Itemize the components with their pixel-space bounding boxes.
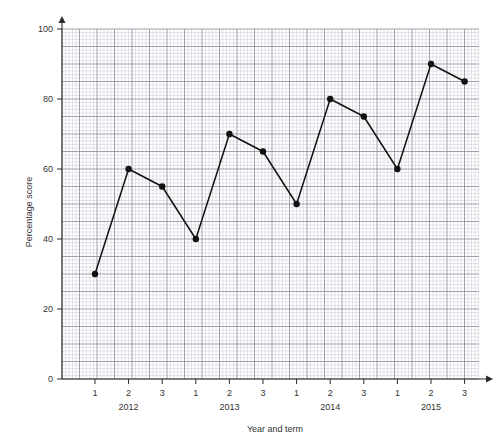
y-tick-label: 40	[43, 234, 53, 244]
line-chart: 020406080100 123123123123 20122013201420…	[0, 0, 501, 447]
x-tick-label: 3	[361, 388, 366, 398]
y-tick-label: 20	[43, 304, 53, 314]
data-point-marker	[361, 113, 367, 119]
y-axis-title: Percentage score	[24, 177, 34, 248]
x-tick-label: 2	[126, 388, 131, 398]
x-tick-label: 1	[294, 388, 299, 398]
x-tick-label: 3	[462, 388, 467, 398]
data-point-marker	[428, 61, 434, 67]
x-tick-label: 1	[395, 388, 400, 398]
x-axis-year-label: 2015	[421, 402, 441, 412]
x-axis-title: Year and term	[247, 424, 303, 434]
x-axis-year-label: 2012	[119, 402, 139, 412]
data-point-marker	[260, 148, 266, 154]
y-tick-label: 100	[38, 24, 53, 34]
y-tick-label: 80	[43, 94, 53, 104]
data-point-marker	[125, 166, 131, 172]
x-tick-label: 2	[227, 388, 232, 398]
major-gridlines	[62, 29, 479, 379]
data-point-marker	[226, 131, 232, 137]
x-axis-year-label: 2013	[219, 402, 239, 412]
x-tick-label: 2	[428, 388, 433, 398]
y-tick-label: 0	[48, 374, 53, 384]
data-point-marker	[394, 166, 400, 172]
data-point-marker	[327, 96, 333, 102]
x-tick-label: 1	[193, 388, 198, 398]
x-tick-label: 3	[260, 388, 265, 398]
chart-container: 020406080100 123123123123 20122013201420…	[0, 0, 501, 447]
data-point-marker	[293, 201, 299, 207]
data-point-marker	[461, 78, 467, 84]
data-point-marker	[159, 183, 165, 189]
y-tick-label: 60	[43, 164, 53, 174]
x-tick-label: 1	[92, 388, 97, 398]
data-point-marker	[92, 271, 98, 277]
data-point-marker	[193, 236, 199, 242]
x-axis-year-label: 2014	[320, 402, 340, 412]
x-tick-label: 3	[160, 388, 165, 398]
x-tick-label: 2	[328, 388, 333, 398]
